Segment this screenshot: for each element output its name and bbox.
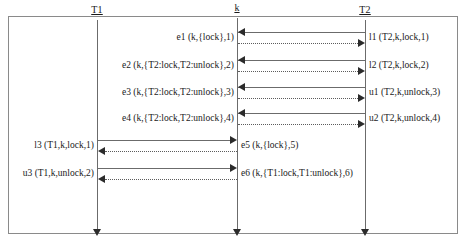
lifeline-end-arrow-k [233, 229, 241, 236]
message-line-5-request [98, 140, 230, 141]
message-arrowhead-2-request [238, 56, 245, 64]
message-label-u2: u2 (T2,k,unlock,4) [369, 113, 440, 124]
lifeline-head-t1: T1 [83, 4, 111, 15]
message-line-6-request [98, 168, 230, 169]
lifeline-t1 [97, 20, 98, 231]
message-line-2-request [238, 60, 365, 61]
message-label-e6: e6 (k,{T1:lock,T1:unlock},6) [241, 168, 353, 179]
message-label-l3: l3 (T1,k,lock,1) [8, 140, 94, 151]
lifeline-end-arrow-t1 [93, 229, 101, 236]
lifeline-label-t1: T1 [91, 4, 103, 15]
message-line-4-request [238, 113, 365, 114]
message-label-u1: u1 (T2,k,unlock,3) [369, 87, 440, 98]
lifeline-label-t2: T2 [359, 4, 371, 15]
message-line-1-reply [238, 43, 358, 44]
sequence-diagram: T1 k T2 e1 (k,{lock},1) l1 (T2,k,lock,1)… [0, 0, 466, 250]
lifeline-head-k: k [227, 2, 247, 13]
message-arrowhead-4-request [238, 109, 245, 117]
message-arrowhead-3-request [238, 83, 245, 91]
lifeline-head-t2: T2 [351, 4, 379, 15]
message-line-3-reply [238, 98, 358, 99]
lifeline-label-k: k [234, 2, 239, 13]
message-arrowhead-2-reply [358, 67, 365, 75]
message-label-e5: e5 (k,{lock},5) [241, 140, 298, 151]
lifeline-t2 [365, 20, 366, 231]
message-arrowhead-5-request [230, 136, 237, 144]
message-arrowhead-3-reply [358, 94, 365, 102]
message-line-1-request [238, 32, 365, 33]
message-arrowhead-5-reply [98, 147, 105, 155]
message-line-4-reply [238, 124, 358, 125]
message-arrowhead-6-request [230, 164, 237, 172]
message-label-u3: u3 (T1,k,unlock,2) [4, 168, 94, 179]
message-line-6-reply [105, 179, 237, 180]
message-arrowhead-6-reply [98, 175, 105, 183]
message-arrowhead-4-reply [358, 120, 365, 128]
diagram-frame [8, 16, 458, 234]
lifeline-end-arrow-t2 [361, 229, 369, 236]
message-line-5-reply [105, 151, 237, 152]
message-label-l2: l2 (T2,k,lock,2) [369, 60, 429, 71]
message-arrowhead-1-request [238, 28, 245, 36]
message-label-e4: e4 (k,{T2:lock,T2:unlock},4) [80, 113, 234, 124]
message-label-e1: e1 (k,{lock},1) [120, 32, 234, 43]
message-label-e2: e2 (k,{T2:lock,T2:unlock},2) [80, 60, 234, 71]
message-arrowhead-1-reply [358, 39, 365, 47]
message-label-l1: l1 (T2,k,lock,1) [369, 32, 429, 43]
message-line-3-request [238, 87, 365, 88]
message-label-e3: e3 (k,{T2:lock,T2:unlock},3) [80, 87, 234, 98]
message-line-2-reply [238, 71, 358, 72]
